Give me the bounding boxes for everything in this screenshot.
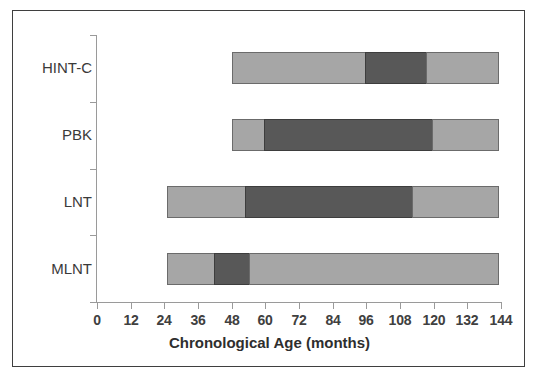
category-tick	[90, 35, 97, 36]
category-label-mlnt: MLNT	[12, 260, 92, 278]
x-axis-title: Chronological Age (months)	[13, 334, 526, 351]
x-tick	[232, 303, 233, 309]
bar-pbk	[232, 119, 501, 151]
bar-segment-light	[426, 52, 499, 84]
bar-segment-light	[432, 119, 499, 151]
x-tick	[265, 303, 266, 309]
x-tick	[164, 303, 165, 309]
x-tick	[198, 303, 199, 309]
x-tick	[501, 303, 502, 309]
category-tick	[90, 302, 97, 303]
plot-area	[97, 35, 501, 303]
bar-segment-light	[167, 186, 246, 218]
x-tick	[299, 303, 300, 309]
bar-segment-light	[167, 253, 215, 285]
bar-hint-c	[232, 52, 501, 84]
bar-segment-light	[232, 119, 266, 151]
x-tick	[97, 303, 98, 309]
bar-segment-light	[232, 52, 367, 84]
bar-segment-dark	[214, 253, 250, 285]
bar-segment-dark	[264, 119, 432, 151]
category-label-lnt: LNT	[12, 193, 92, 211]
x-tick	[467, 303, 468, 309]
category-tick	[90, 235, 97, 236]
x-tick	[131, 303, 132, 309]
chart-frame: HINT-CPBKLNTMLNT 01224364860728496108120…	[12, 10, 525, 367]
bar-segment-dark	[245, 186, 413, 218]
bar-segment-light	[249, 253, 499, 285]
bar-segment-dark	[365, 52, 427, 84]
bar-mlnt	[167, 253, 501, 285]
x-tick	[434, 303, 435, 309]
category-label-hint-c: HINT-C	[12, 59, 92, 77]
bar-segment-light	[412, 186, 499, 218]
x-tick-label: 144	[481, 311, 521, 329]
bar-lnt	[167, 186, 501, 218]
category-label-pbk: PBK	[12, 126, 92, 144]
category-tick	[90, 169, 97, 170]
x-tick	[366, 303, 367, 309]
category-tick	[90, 102, 97, 103]
x-tick	[400, 303, 401, 309]
x-tick	[333, 303, 334, 309]
